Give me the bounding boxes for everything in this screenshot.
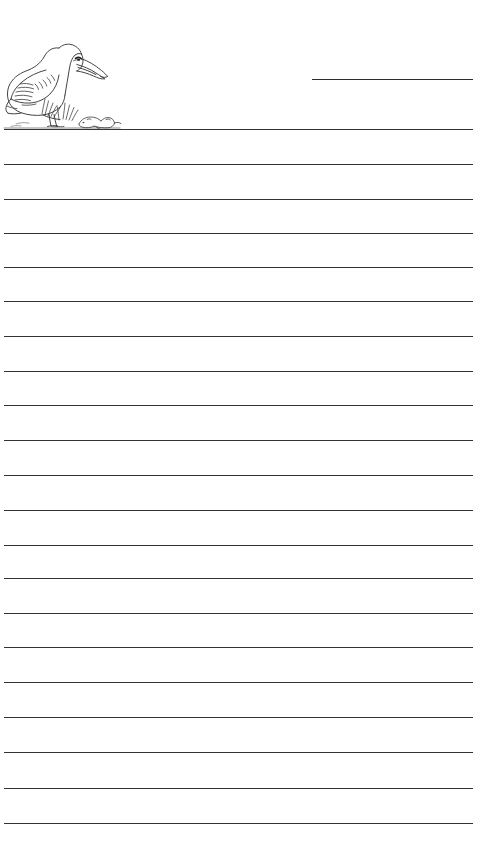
writing-line-row[interactable] xyxy=(4,233,473,267)
writing-line-row[interactable] xyxy=(4,441,473,475)
writing-line-row[interactable] xyxy=(4,130,473,164)
writing-line-row[interactable] xyxy=(4,406,473,440)
rule-line xyxy=(4,752,473,753)
writing-line-row[interactable] xyxy=(4,371,473,405)
writing-paper-page xyxy=(0,0,499,863)
writing-line-row[interactable] xyxy=(4,718,473,752)
writing-line-row[interactable] xyxy=(4,648,473,682)
writing-line-row[interactable] xyxy=(4,579,473,613)
writing-line-row[interactable] xyxy=(4,683,473,717)
writing-line-row[interactable] xyxy=(4,267,473,301)
writing-line-row[interactable] xyxy=(4,613,473,647)
writing-line-row[interactable] xyxy=(4,754,473,788)
writing-line-row[interactable] xyxy=(4,789,473,823)
writing-line-row[interactable] xyxy=(4,511,473,545)
writing-line-row[interactable] xyxy=(4,165,473,199)
writing-line-row[interactable] xyxy=(4,199,473,233)
writing-line-row[interactable] xyxy=(4,95,473,129)
writing-line-row[interactable] xyxy=(4,476,473,510)
ruled-lines-area xyxy=(0,0,499,863)
writing-line-row[interactable] xyxy=(4,544,473,578)
rule-line xyxy=(4,823,473,824)
writing-line-row[interactable] xyxy=(4,337,473,371)
writing-line-row[interactable] xyxy=(4,302,473,336)
